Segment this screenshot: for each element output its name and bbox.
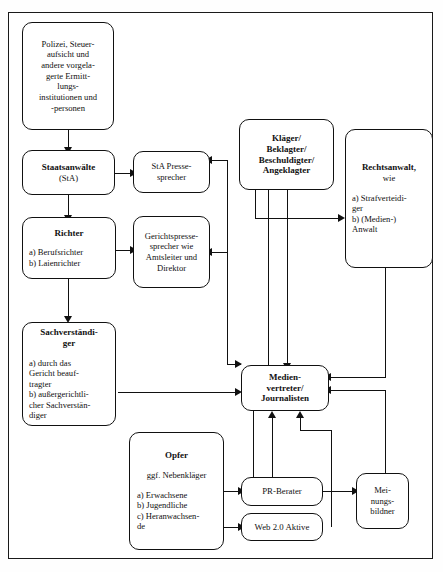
node-sta-pressesprecher[interactable]: StA Presse- sprecher (133, 151, 210, 193)
arrowhead-riser-into-medien (235, 360, 242, 368)
node-rechtsanwalt-items: a) Strafverteidi- ger b) (Medien-) Anwal… (352, 193, 426, 235)
node-staatsanwaelte[interactable]: Staatsanwälte (StA) (22, 150, 115, 195)
edge-medien-to-klaeger (268, 190, 269, 365)
edge-polizei-to-staatsanwaelte (68, 129, 69, 149)
node-pr-berater-title: PR-Berater (244, 486, 320, 497)
edge-prberater-to-meinungsbildner (323, 491, 355, 492)
edge-klaeger-to-rechtsanwalt-horiz (255, 218, 340, 219)
arrowhead-web20-medien (296, 411, 304, 418)
node-richter[interactable]: Richter a) Berufsrichter b) Laienrichter (22, 217, 116, 279)
node-medien-title: Medien- vertreter/ Journalisten (245, 372, 325, 405)
edge-web20-to-medien-up (300, 418, 301, 431)
spacer-opfer-2 (137, 481, 216, 490)
edge-meinungsbildner-to-medien-vert (385, 390, 386, 473)
edge-rechtsanwalt-to-medien-vert (385, 268, 386, 378)
node-klaeger[interactable]: Kläger/ Beklagter/ Beschuldigter/ Angekl… (239, 119, 334, 190)
edge-prberater-to-medien (272, 418, 273, 484)
node-rechtsanwalt-sub: wie (352, 173, 426, 184)
edge-staatsanwaelte-to-richter (68, 195, 69, 217)
node-richter-items: a) Berufsrichter b) Laienrichter (29, 247, 109, 268)
node-richter-title: Richter (29, 228, 109, 239)
node-gerichtspressesprecher[interactable]: Gerichtspresse- sprecher wie Amtsleiter … (133, 216, 210, 288)
edge-web20-to-medien-horiz (300, 430, 332, 431)
node-medien[interactable]: Medien- vertreter/ Journalisten (241, 365, 329, 411)
edge-web20-riser (331, 430, 332, 527)
node-sachverstaendiger[interactable]: Sachverständi- ger a) durch das Gericht … (22, 322, 116, 426)
edge-meinungsbildner-to-medien-horiz (330, 390, 386, 391)
node-polizei[interactable]: Polizei, Steuer- aufsicht und andere vor… (22, 22, 114, 130)
node-polizei-title: Polizei, Steuer- aufsicht und andere vor… (27, 39, 109, 114)
node-pr-berater[interactable]: PR-Berater (241, 477, 323, 506)
spacer-opfer-1 (137, 461, 216, 470)
diagram-canvas: Polizei, Steuer- aufsicht und andere vor… (0, 0, 443, 572)
node-gerichtspressesprecher-title: Gerichtspresse- sprecher wie Amtsleiter … (137, 231, 206, 274)
edge-medien-to-pressespokes-riser (227, 160, 228, 365)
node-sachverstaendiger-title: Sachverständi- ger (29, 327, 109, 349)
edge-rechtsanwalt-to-medien-horiz (330, 377, 386, 378)
node-rechtsanwalt-title: Rechtsanwalt, (352, 162, 426, 173)
edge-prberater-line-plain (253, 411, 254, 484)
spacer-richter (29, 239, 109, 248)
node-sta-pressesprecher-title: StA Presse- sprecher (137, 161, 206, 182)
node-meinungsbildner-title: Mei- nungs- bildner (359, 485, 406, 517)
node-rechtsanwalt[interactable]: Rechtsanwalt, wie a) Strafverteidi- ger … (345, 129, 433, 268)
edge-riser-to-gerichtspresse (210, 252, 228, 253)
node-opfer[interactable]: Opfer ggf. Nebenkläger a) Erwachsene b) … (129, 432, 224, 550)
node-sachverstaendiger-items: a) durch das Gericht beauf- tragter b) a… (29, 358, 109, 421)
node-opfer-items: a) Erwachsene b) Jugendliche c) Heranwac… (137, 490, 216, 532)
arrowhead-prberater-medien (268, 411, 276, 418)
node-opfer-sub: ggf. Nebenkläger (137, 470, 216, 481)
node-opfer-title: Opfer (137, 450, 216, 461)
node-meinungsbildner[interactable]: Mei- nungs- bildner (356, 473, 409, 529)
node-staatsanwaelte-title: Staatsanwälte (26, 162, 111, 173)
edge-riser-to-sta-presse (210, 160, 228, 161)
node-web20[interactable]: Web 2.0 Aktive (241, 513, 323, 541)
spacer-rechtsanwalt (352, 184, 426, 193)
arrowhead-klaeger-rechtsanwalt (338, 214, 345, 222)
node-staatsanwaelte-sub: (StA) (26, 173, 111, 184)
spacer-sachverstaendiger (29, 349, 109, 358)
node-web20-title: Web 2.0 Aktive (244, 522, 320, 533)
edge-sachverstaendiger-to-medien (118, 392, 237, 393)
edge-klaeger-to-medien (287, 190, 288, 365)
edge-richter-to-sachverstaendiger (68, 279, 69, 318)
node-klaeger-title: Kläger/ Beklagter/ Beschuldigter/ Angekl… (243, 133, 330, 177)
edge-klaeger-to-rechtsanwalt-vert (255, 190, 256, 218)
